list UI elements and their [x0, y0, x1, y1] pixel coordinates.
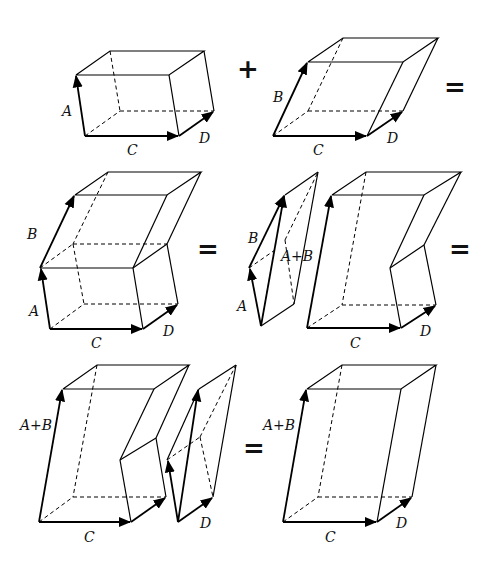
- wedge-a-b: B A A+B: [235, 172, 318, 326]
- label-a-plus-b: A+B: [261, 417, 295, 433]
- stacked-boxes: B A C D: [26, 172, 201, 351]
- equals-sign: =: [444, 72, 466, 102]
- label-a: A: [27, 303, 39, 319]
- notched-solid: C D: [307, 172, 461, 351]
- label-b: B: [247, 230, 258, 246]
- label-d: D: [199, 515, 211, 531]
- label-c: C: [127, 142, 138, 158]
- label-d: D: [162, 323, 174, 339]
- label-a-plus-b: A+B: [18, 417, 52, 433]
- label-a: A: [235, 298, 247, 314]
- label-d: D: [386, 130, 398, 146]
- equals-sign: =: [197, 234, 219, 264]
- box-a-plus-b-c-d: A+B C D: [261, 365, 436, 545]
- label-c: C: [91, 335, 102, 351]
- label-c: C: [350, 335, 361, 351]
- box-b-c-d: B C D: [272, 38, 438, 158]
- notched-solid: A+B C: [18, 365, 189, 545]
- label-a: A: [60, 103, 72, 119]
- label-c: C: [84, 529, 95, 545]
- label-d: D: [395, 515, 407, 531]
- label-b: B: [26, 226, 37, 242]
- label-c: C: [313, 142, 324, 158]
- label-a-plus-b: A+B: [279, 248, 313, 264]
- label-c: C: [325, 529, 336, 545]
- label-d: D: [419, 323, 431, 339]
- equals-sign: =: [449, 234, 471, 264]
- plus-sign: +: [237, 54, 259, 84]
- diagram-canvas: A C D + B C D = B: [0, 0, 487, 578]
- label-b: B: [272, 89, 283, 105]
- equals-sign: =: [243, 433, 265, 463]
- label-d: D: [198, 130, 210, 146]
- box-a-c-d: A C D: [60, 51, 214, 158]
